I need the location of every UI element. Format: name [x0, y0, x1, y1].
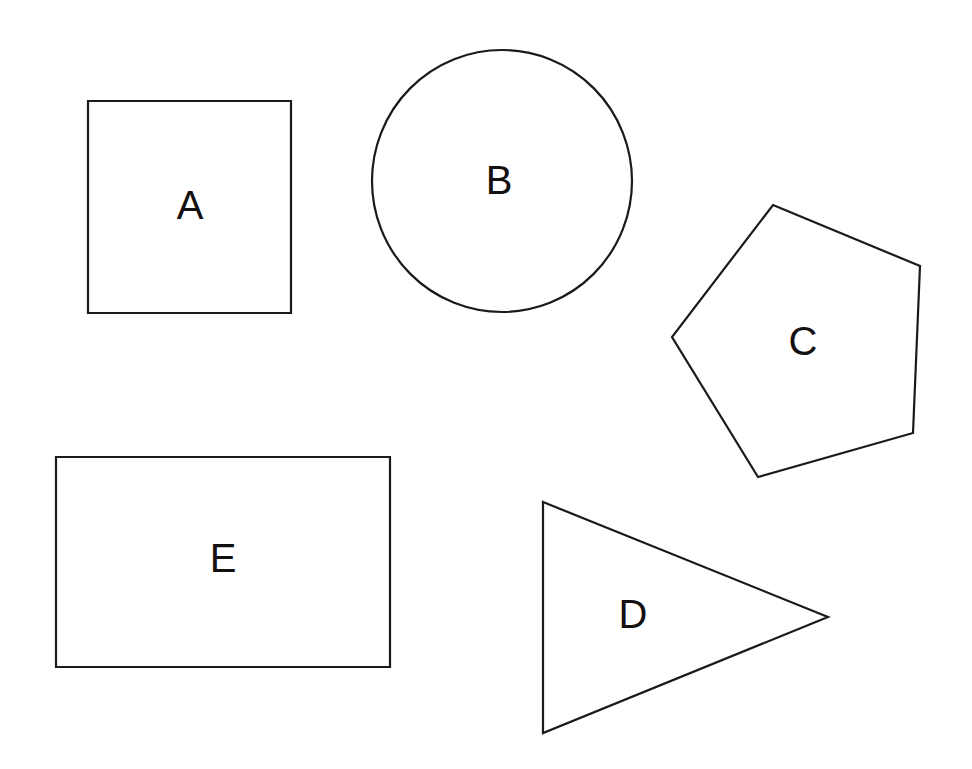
triangle-shape-d[interactable]: [543, 502, 828, 733]
shape-group-c[interactable]: C: [672, 205, 920, 477]
shape-label-e: E: [210, 536, 237, 580]
shape-group-a[interactable]: A: [88, 101, 291, 313]
shape-group-d[interactable]: D: [543, 502, 828, 733]
diagram-canvas: A B C D E: [0, 0, 972, 769]
shape-label-c: C: [789, 319, 818, 363]
shape-group-b[interactable]: B: [372, 50, 632, 312]
shape-label-b: B: [486, 158, 513, 202]
shape-group-e[interactable]: E: [56, 457, 390, 667]
shapes-svg: A B C D E: [0, 0, 972, 769]
shape-label-d: D: [619, 592, 648, 636]
shape-label-a: A: [177, 183, 204, 227]
